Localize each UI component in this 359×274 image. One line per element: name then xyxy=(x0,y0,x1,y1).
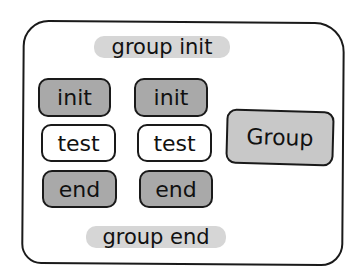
end-box-1: end xyxy=(42,170,117,208)
group-box: Group xyxy=(225,109,334,167)
init-box-1: init xyxy=(38,78,111,117)
group-end-label: group end xyxy=(86,226,226,248)
init-box-2: init xyxy=(134,78,208,117)
test-box-2: test xyxy=(137,124,212,162)
test-box-1: test xyxy=(41,124,116,162)
end-box-2: end xyxy=(139,170,213,208)
group-init-label: group init xyxy=(94,36,230,58)
